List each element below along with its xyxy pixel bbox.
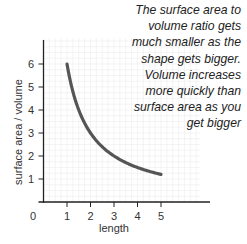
y-tick-label: 5 [28,81,34,93]
x-ticks: 012345 [30,202,164,222]
annotation-line: much smaller as the [91,34,241,50]
annotation-line: get bigger [91,115,241,131]
x-tick-label: 1 [64,210,70,222]
annotation-line: The surface area to [91,2,241,18]
annotation-text: The surface area tovolume ratio getsmuch… [91,2,241,132]
x-tick-label: 2 [87,210,93,222]
y-tick-label: 1 [28,173,34,185]
x-tick-label: 0 [30,210,36,222]
x-tick-label: 3 [111,210,117,222]
annotation-line: more quickly than [91,83,241,99]
annotation-line: surface area as you [91,99,241,115]
y-tick-label: 4 [28,104,34,116]
y-tick-label: 3 [28,127,34,139]
y-ticks: 123456 [28,58,44,185]
y-tick-label: 2 [28,150,34,162]
y-tick-label: 6 [28,58,34,70]
x-tick-label: 5 [158,210,164,222]
annotation-line: Volume increases [91,67,241,83]
annotation-line: volume ratio gets [91,18,241,34]
annotation-line: shape gets bigger. [91,51,241,67]
x-axis-label: length [99,222,129,234]
y-axis-label: surface area / volume [12,79,24,185]
x-tick-label: 4 [134,210,140,222]
